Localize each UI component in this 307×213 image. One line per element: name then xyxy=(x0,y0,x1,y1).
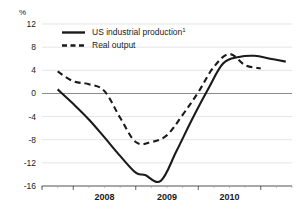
y-axis-tick-label: 4 xyxy=(31,65,36,75)
y-axis-tick-label: 8 xyxy=(31,42,36,52)
legend-label-us-industrial-production: US industrial production1 xyxy=(92,27,186,38)
y-axis-tick-label: -4 xyxy=(28,112,36,122)
chart-container: % 12840-4-8-12-16 200820092010 US indust… xyxy=(0,0,307,213)
y-axis-unit-label: % xyxy=(19,8,26,17)
x-axis-tick-labels: 200820092010 xyxy=(94,192,239,202)
line-chart: % 12840-4-8-12-16 200820092010 US indust… xyxy=(0,0,307,213)
x-axis-ticks xyxy=(42,186,292,190)
y-gridlines xyxy=(42,24,292,186)
x-axis-tick-label: 2009 xyxy=(157,192,177,202)
y-axis-tick-label: -12 xyxy=(24,158,37,168)
y-axis-tick-label: -16 xyxy=(24,181,37,191)
legend-label-real-output: Real output xyxy=(92,40,136,50)
x-axis-tick-label: 2010 xyxy=(219,192,239,202)
y-axis-tick-label: 12 xyxy=(27,19,37,29)
y-axis-tick-label: 0 xyxy=(31,88,36,98)
series-real-output xyxy=(58,54,261,144)
y-axis-tick-labels: 12840-4-8-12-16 xyxy=(24,19,37,191)
chart-legend: US industrial production1 Real output xyxy=(62,27,186,51)
x-axis-tick-label: 2008 xyxy=(94,192,114,202)
y-axis-tick-label: -8 xyxy=(28,135,36,145)
